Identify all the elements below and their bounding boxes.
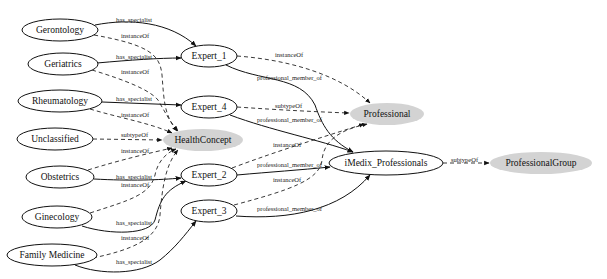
node-family-medicine[interactable]: Family Medicine [7,244,97,266]
edge-label: professional_member_of [257,116,323,123]
ontology-graph: has_specialist instanceOf has_specialist… [0,0,607,279]
node-expert-4[interactable]: Expert_4 [181,96,237,118]
node-professional[interactable]: Professional [350,103,424,125]
node-ginecology[interactable]: Ginecology [22,206,92,228]
node-imedix-professionals[interactable]: iMedix_Professionals [329,151,443,175]
edge-label: instanceOf [121,111,150,118]
edge-label: instanceOf [275,51,304,58]
edge-label: instanceOf [273,176,302,183]
node-label: Unclassified [31,134,79,144]
edge-label: has_specialist [116,95,152,102]
node-label: Professional [364,109,411,119]
node-professional-group[interactable]: ProfessionalGroup [490,152,592,174]
edges: has_specialist instanceOf has_specialist… [75,16,489,272]
edge-label: subtypeOf [275,102,303,109]
edge-label: instanceOf [121,234,150,241]
edge-label: professional_member_of [257,161,323,168]
node-label: Ginecology [35,212,80,222]
edge-label: has_specialist [116,219,152,226]
node-unclassified[interactable]: Unclassified [17,128,93,150]
edge-label: instanceOf [121,32,150,39]
node-label: ProfessionalGroup [505,158,576,168]
edge-unclassified-healthconcept [93,139,162,140]
edge-rheumatology-expert4 [102,102,181,105]
edge-label: instanceOf [273,141,302,148]
node-expert-1[interactable]: Expert_1 [181,45,237,67]
node-label: Expert_4 [192,102,227,112]
node-health-concept[interactable]: HealthConcept [163,129,243,151]
edge-label: professional_member_of [257,74,323,81]
node-label: HealthConcept [175,135,232,145]
node-label: Expert_3 [192,206,227,216]
edge-label: instanceOf [121,68,150,75]
edge-label: has_specialist [116,16,152,23]
node-rheumatology[interactable]: Rheumatology [18,90,102,112]
edge-label: professional_member_of [257,205,323,212]
edge-label: subtypeOf [121,131,149,138]
edge-label: has_specialist [116,53,152,60]
node-geriatrics[interactable]: Geriatrics [28,53,98,75]
node-label: Gerontology [36,25,84,35]
node-label: Geriatrics [44,59,82,69]
edge-label: subtypeOf [451,156,479,163]
node-label: Obstetrics [41,172,80,182]
node-expert-3[interactable]: Expert_3 [181,200,237,222]
node-label: Expert_2 [192,170,227,180]
edge-label: instanceOf [121,181,150,188]
node-gerontology[interactable]: Gerontology [22,19,98,41]
node-obstetrics[interactable]: Obstetrics [26,166,94,188]
node-label: Family Medicine [19,250,84,260]
edge-label: instanceOf [121,147,150,154]
node-expert-2[interactable]: Expert_2 [181,164,237,186]
node-label: iMedix_Professionals [345,158,428,168]
edge-label: has_specialist [116,258,152,265]
node-label: Expert_1 [192,51,227,61]
node-label: Rheumatology [32,96,88,106]
graph-canvas: has_specialist instanceOf has_specialist… [0,0,607,279]
edge-expert2-imedix [237,167,330,175]
edge-label: has_specialist [116,173,152,180]
edge-familymedicine-healthconcept [93,150,178,258]
